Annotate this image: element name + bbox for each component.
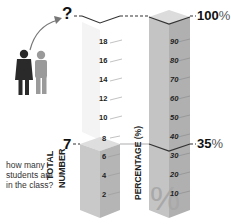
left-axis-label: TOTAL NUMBER (44, 149, 68, 189)
tick-label: 30 (170, 151, 178, 160)
value-percent-marker: 35% (197, 136, 223, 151)
tick-label: 2 (102, 190, 106, 199)
right-axis-label: PERCENTAGE (%) (133, 126, 143, 200)
left-axis-label-line2: NUMBER (56, 149, 68, 189)
tick-label: 18 (99, 37, 107, 46)
top-percent-marker: 100% (197, 8, 230, 23)
tick-label: 80 (170, 56, 178, 65)
value-percent-unit: % (211, 136, 223, 151)
tick-label: 10 (99, 113, 107, 122)
top-percent-value: 100 (197, 8, 219, 23)
tick-label: 90 (170, 37, 178, 46)
tick-label: 50 (170, 113, 178, 122)
tick-label: 12 (99, 94, 107, 103)
tick-label: 70 (170, 75, 178, 84)
tick-label: 6 (102, 152, 106, 161)
top-percent-unit: % (219, 8, 231, 23)
question-mark: ? (62, 4, 72, 24)
dark-person-icon (15, 50, 33, 95)
tick-label: 60 (170, 94, 178, 103)
arrow-icon (30, 16, 62, 50)
tick-label: 8 (102, 134, 106, 143)
tick-label: 4 (102, 171, 106, 180)
left-axis-label-line1: TOTAL (44, 149, 56, 189)
tick-label: 14 (99, 75, 107, 84)
tick-label: 20 (170, 170, 178, 179)
percent-watermark: % (150, 179, 180, 217)
tick-label: 10 (170, 189, 178, 198)
grey-person-icon (35, 51, 47, 94)
diagram: % (0, 0, 231, 224)
left-bar-ghost (82, 22, 100, 140)
tick-label: 40 (170, 132, 178, 141)
tick-label: 16 (99, 56, 107, 65)
value-percent-value: 35 (197, 136, 211, 151)
